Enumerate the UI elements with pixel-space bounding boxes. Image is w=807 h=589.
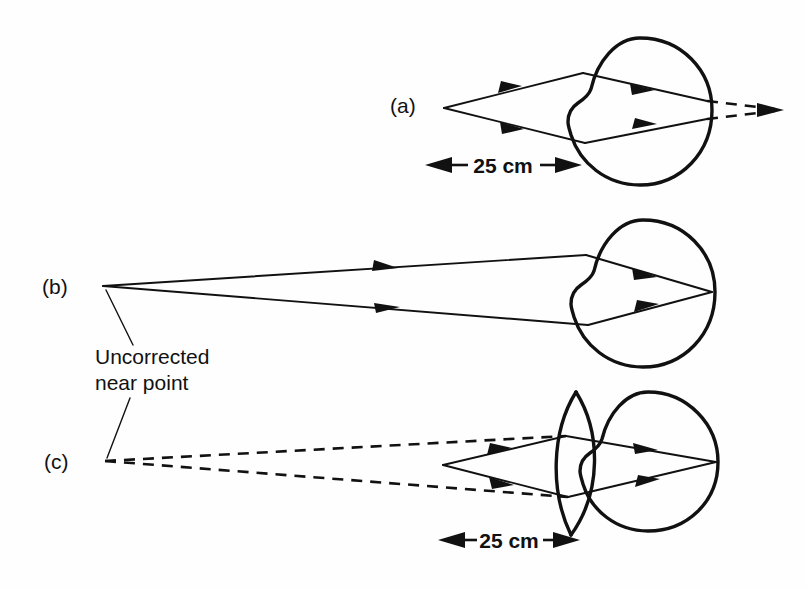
figure-background (0, 0, 807, 589)
near-point-label-line2: near point (95, 371, 189, 394)
eye-correction-figure: (a) 25 cm (b) (0, 0, 807, 589)
panel-b-label: (b) (42, 275, 68, 298)
near-point-label-line1: Uncorrected (95, 345, 209, 368)
panel-c-label: (c) (44, 450, 69, 473)
dim-a-label: 25 cm (473, 154, 533, 177)
panel-a-label: (a) (390, 94, 416, 117)
dim-c-label: 25 cm (479, 529, 539, 552)
figure-canvas: (a) 25 cm (b) (0, 0, 807, 589)
